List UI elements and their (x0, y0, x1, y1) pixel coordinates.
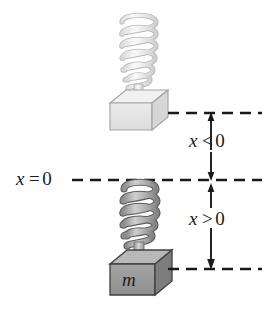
spring-mass-diagram: x=0 x<0 x>0 m (0, 0, 264, 317)
mass-label: m (122, 269, 136, 291)
upper-block (110, 90, 168, 130)
label-x-greater-than-zero-operator: > (200, 208, 215, 229)
label-x-equals-zero-value: 0 (42, 168, 52, 189)
label-x-greater-than-zero-variable: x (189, 208, 200, 229)
label-x-greater-than-zero-value: 0 (215, 208, 225, 229)
lower-block (110, 250, 172, 295)
label-x-equals-zero: x=0 (16, 168, 52, 190)
label-x-less-than-zero-operator: < (200, 130, 215, 151)
label-x-equals-zero-variable: x (16, 168, 27, 189)
label-x-less-than-zero-value: 0 (215, 130, 225, 151)
label-x-greater-than-zero: x>0 (189, 208, 225, 230)
upper-spring (122, 15, 156, 100)
label-x-less-than-zero: x<0 (189, 130, 225, 152)
label-x-equals-zero-operator: = (27, 168, 42, 189)
label-x-less-than-zero-variable: x (189, 130, 200, 151)
